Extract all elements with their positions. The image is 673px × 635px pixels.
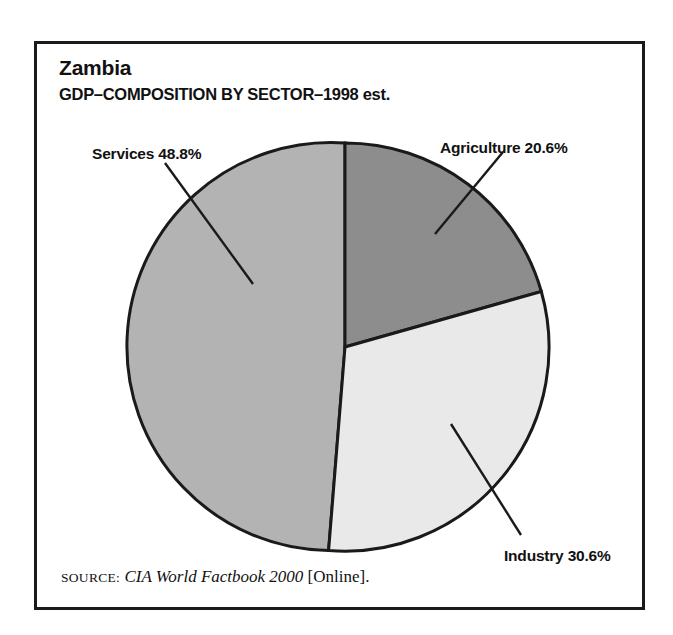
source-label: SOURCE: [61,570,120,585]
pie-label-agriculture: Agriculture 20.6% [440,139,568,157]
pie-label-industry: Industry 30.6% [504,547,611,565]
pie-chart [37,44,642,607]
figure-frame: Zambia GDP–COMPOSITION BY SECTOR–1998 es… [34,41,645,610]
source-title: CIA World Factbook 2000 [124,567,303,586]
pie-slice-services[interactable] [127,143,345,551]
source-citation: SOURCE: CIA World Factbook 2000 [Online]… [61,567,369,587]
source-medium: [Online]. [308,567,370,586]
pie-label-services: Services 48.8% [92,145,201,163]
